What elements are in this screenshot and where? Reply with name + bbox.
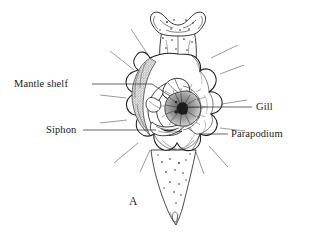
label-siphon: Siphon <box>46 124 77 135</box>
figure-caption-letter: A <box>129 195 138 207</box>
label-gill: Gill <box>256 101 273 112</box>
label-parapodium: Parapodium <box>231 128 283 139</box>
anatomical-illustration: Mantle shelf Siphon Gill Parapodium A <box>0 0 331 234</box>
figure-container: Mantle shelf Siphon Gill Parapodium A <box>0 0 331 234</box>
label-mantle-shelf: Mantle shelf <box>14 78 68 89</box>
